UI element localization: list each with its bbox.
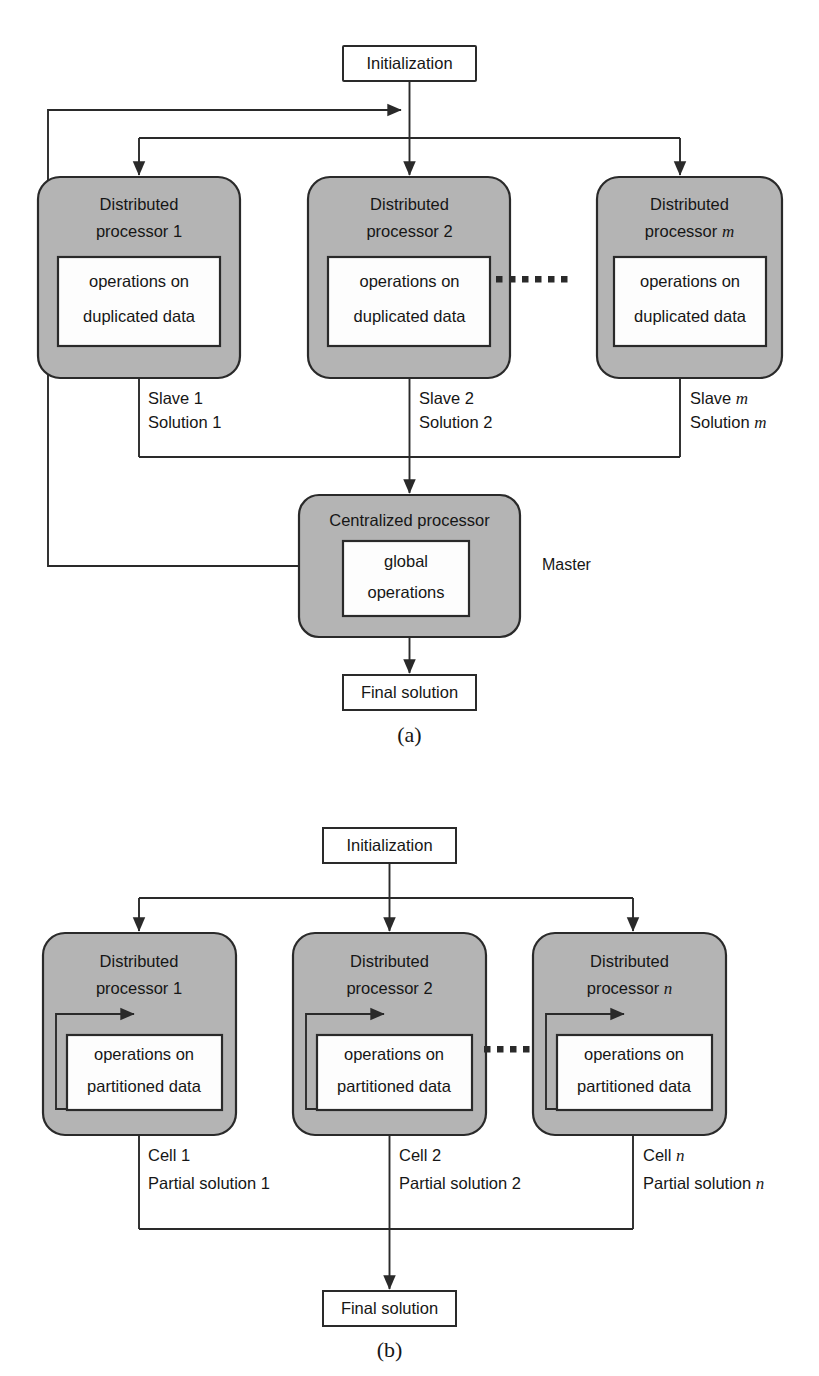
panel-b-processor-n[interactable]: Distributed processor n operations on pa… [533, 933, 726, 1135]
panel-b-final-label: Final solution [341, 1299, 438, 1317]
panel-a-out-label-m: Slave m Solution m [690, 389, 767, 432]
panel-b-processor-n-title-line2: processor n [587, 979, 673, 998]
panel-a-processor-1-title-line2: processor 1 [96, 222, 182, 240]
panel-a-out-label-1-line1: Slave 1 [148, 389, 203, 407]
panel-b-processor-n-title-line1: Distributed [590, 952, 669, 970]
panel-b-out-label-1: Cell 1 Partial solution 1 [148, 1146, 270, 1192]
panel-a-processor-1-inner-line1: operations on [89, 272, 189, 290]
panel-b-out-label-1-line1: Cell 1 [148, 1146, 190, 1164]
panel-a-processor-2-inner-box [328, 257, 490, 346]
panel-a-processor-m-inner-line2: duplicated data [634, 307, 747, 325]
panel-b-out-label-2-line1: Cell 2 [399, 1146, 441, 1164]
panel-b-processor-1-title-line2: processor 1 [96, 979, 182, 997]
panel-a-out-label-2-line2: Solution 2 [419, 413, 492, 431]
panel-b-processor-2-title-line2: processor 2 [346, 979, 432, 997]
panel-a-central-processor[interactable]: Centralized processor global operations [299, 495, 520, 637]
panel-a-out-label-2: Slave 2 Solution 2 [419, 389, 492, 431]
panel-b-out-label-2-line2: Partial solution 2 [399, 1174, 521, 1192]
panel-a-final-label: Final solution [361, 683, 458, 701]
panel-a-master-label: Master [542, 556, 592, 573]
panel-a-init-box[interactable]: Initialization [343, 46, 476, 81]
panel-b-out-label-n-index2: n [756, 1174, 765, 1193]
panel-a-processor-1-title-line1: Distributed [100, 195, 179, 213]
panel-a-central-inner-line1: global [384, 552, 428, 570]
panel-b: Initialization Distributed processor 1 o… [43, 828, 764, 1362]
panel-a-out-label-2-line1: Slave 2 [419, 389, 474, 407]
panel-a-out-label-m-line2: Solution m [690, 413, 767, 432]
panel-a-out-label-1: Slave 1 Solution 1 [148, 389, 221, 431]
panel-a-processor-m-index: m [722, 222, 734, 241]
panel-a-processor-2[interactable]: Distributed processor 2 operations on du… [308, 177, 510, 378]
panel-a-processor-m-inner-line1: operations on [640, 272, 740, 290]
panel-b-processor-2[interactable]: Distributed processor 2 operations on pa… [293, 933, 486, 1135]
panel-a-processor-m[interactable]: Distributed processor m operations on du… [597, 177, 782, 378]
panel-a-caption: (a) [397, 722, 421, 747]
panel-a: Initialization Distributed processor 1 o… [38, 46, 782, 747]
panel-a-processor-1-inner-line2: duplicated data [83, 307, 196, 325]
panel-b-caption: (b) [377, 1337, 403, 1362]
panel-b-processor-n-inner-line2: partitioned data [577, 1077, 692, 1095]
panel-a-processor-2-title-line2: processor 2 [366, 222, 452, 240]
panel-b-out-label-n-line2: Partial solution n [643, 1174, 764, 1193]
panel-b-final-box[interactable]: Final solution [323, 1291, 456, 1326]
panel-a-processor-2-inner-line1: operations on [360, 272, 460, 290]
panel-a-processor-m-title-line2: processor m [645, 222, 734, 241]
panel-a-out-label-m-index2: m [754, 413, 766, 432]
panel-a-out-label-m-index1: m [736, 389, 748, 408]
panel-a-processor-m-title-line1: Distributed [650, 195, 729, 213]
panel-b-processor-1-inner-line2: partitioned data [87, 1077, 202, 1095]
figure-root: Initialization Distributed processor 1 o… [0, 0, 819, 1376]
panel-b-out-label-n-line1: Cell n [643, 1146, 685, 1165]
panel-a-processor-1[interactable]: Distributed processor 1 operations on du… [38, 177, 240, 378]
panel-a-processor-1-inner-box [58, 257, 220, 346]
panel-b-processor-2-inner-line1: operations on [344, 1045, 444, 1063]
panel-a-processor-2-inner-line2: duplicated data [354, 307, 467, 325]
panel-b-out-label-2: Cell 2 Partial solution 2 [399, 1146, 521, 1192]
panel-b-processor-n-index: n [664, 979, 673, 998]
panel-a-processor-m-inner-box [614, 257, 766, 346]
panel-b-processor-1-inner-line1: operations on [94, 1045, 194, 1063]
panel-b-init-box[interactable]: Initialization [323, 828, 456, 863]
panel-a-central-inner-line2: operations [367, 583, 444, 601]
panel-a-final-box[interactable]: Final solution [343, 675, 476, 710]
panel-b-out-label-1-line2: Partial solution 1 [148, 1174, 270, 1192]
panel-b-processor-1-title-line1: Distributed [100, 952, 179, 970]
panel-a-out-label-m-line1: Slave m [690, 389, 748, 408]
panel-a-out-label-1-line2: Solution 1 [148, 413, 221, 431]
panel-a-central-title: Centralized processor [329, 511, 490, 529]
panel-a-processor-2-title-line1: Distributed [370, 195, 449, 213]
panel-a-init-label: Initialization [366, 54, 452, 72]
diagram-canvas: Initialization Distributed processor 1 o… [0, 0, 819, 1376]
panel-b-out-label-n: Cell n Partial solution n [643, 1146, 764, 1193]
panel-b-out-label-n-index1: n [676, 1146, 685, 1165]
panel-b-processor-2-inner-line2: partitioned data [337, 1077, 452, 1095]
panel-b-processor-2-title-line1: Distributed [350, 952, 429, 970]
panel-b-init-label: Initialization [346, 836, 432, 854]
panel-b-processor-n-inner-line1: operations on [584, 1045, 684, 1063]
panel-b-processor-1[interactable]: Distributed processor 1 operations on pa… [43, 933, 236, 1135]
